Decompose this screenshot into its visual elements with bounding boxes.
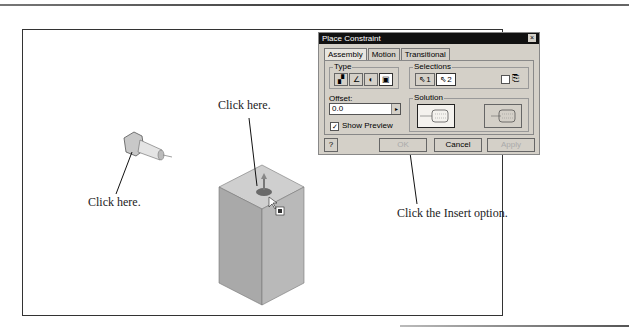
selections-label: Selections <box>413 62 452 71</box>
block-part <box>219 165 304 305</box>
insert-icon[interactable]: ▣ <box>379 73 393 86</box>
solution-label: Solution <box>413 93 444 102</box>
offset-label: Offset: <box>329 94 352 103</box>
pick-part-icon[interactable]: ⎘ <box>512 73 519 84</box>
mate-icon[interactable]: ▞ <box>334 73 348 86</box>
callout-bolt: Click here. <box>88 195 141 210</box>
dialog-titlebar: Place Constraint × <box>319 33 539 44</box>
type-label: Type <box>333 62 352 71</box>
selection-2-button[interactable]: ⇖2 <box>436 73 456 86</box>
assembly-panel: Type ▞ ∠ ◐ ▣ Selections ⇖1 ⇖2 ⎘ Offset: … <box>324 60 534 135</box>
selections-group: Selections ⇖1 ⇖2 ⎘ <box>409 67 529 89</box>
angle-icon[interactable]: ∠ <box>349 73 363 86</box>
selection-1-button[interactable]: ⇖1 <box>415 73 435 86</box>
solution-group: Solution <box>409 98 529 132</box>
callout-block: Click here. <box>218 98 271 113</box>
show-preview-checkbox[interactable]: ✓ <box>330 122 339 131</box>
opposed-cylinder-icon <box>418 105 454 127</box>
solution-aligned-button[interactable] <box>484 104 522 128</box>
apply-button[interactable]: Apply <box>487 138 535 152</box>
close-icon[interactable]: × <box>528 34 536 42</box>
cancel-button[interactable]: Cancel <box>434 138 482 152</box>
tab-transitional[interactable]: Transitional <box>401 48 450 60</box>
tangent-icon[interactable]: ◐ <box>364 73 378 86</box>
place-constraint-dialog: Place Constraint × Assembly Motion Trans… <box>318 32 540 155</box>
solution-opposed-button[interactable] <box>417 104 455 128</box>
type-group: Type ▞ ∠ ◐ ▣ <box>329 67 399 89</box>
ok-button[interactable]: OK <box>379 138 427 152</box>
callout-insert: Click the Insert option. <box>397 206 508 221</box>
tab-motion[interactable]: Motion <box>368 48 400 60</box>
aligned-cylinder-icon <box>485 105 521 127</box>
first-click-checkbox[interactable] <box>501 75 510 84</box>
offset-spin-icon[interactable]: ▸ <box>391 104 400 114</box>
bolt-part <box>124 132 172 160</box>
offset-input[interactable]: 0.0 ▸ <box>329 103 401 115</box>
help-button[interactable]: ? <box>324 138 338 152</box>
dialog-title: Place Constraint <box>322 34 381 43</box>
show-preview-label: Show Preview <box>342 121 393 130</box>
